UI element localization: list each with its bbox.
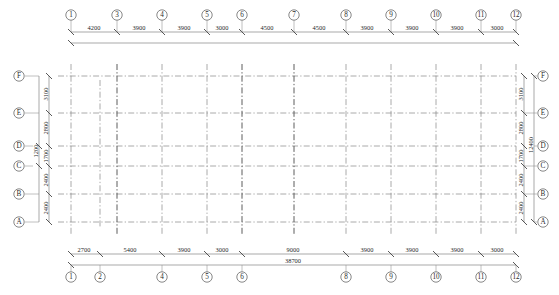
grid-bubble-top-10[interactable]: 10 bbox=[431, 10, 441, 32]
bubble-label: 12 bbox=[512, 273, 520, 281]
bubble-label: F bbox=[17, 72, 21, 80]
bubble-label: 4 bbox=[160, 11, 164, 19]
grid-bubble-bottom-2[interactable]: 2 bbox=[95, 265, 105, 282]
grid-bubble-left-C[interactable]: C bbox=[14, 161, 33, 171]
grid-bubble-left-B[interactable]: B bbox=[14, 189, 39, 199]
bottom-dim-8: 3900 bbox=[451, 246, 464, 253]
grid-bubble-right-C[interactable]: C bbox=[524, 161, 548, 171]
grid-bubble-top-12[interactable]: 12 bbox=[511, 10, 521, 32]
bubble-label: 1 bbox=[69, 273, 73, 281]
grid-bubble-bottom-10[interactable]: 10 bbox=[431, 265, 441, 282]
grid-bubble-bottom-8[interactable]: 8 bbox=[341, 265, 351, 282]
grid-bubble-left-D[interactable]: D bbox=[14, 141, 33, 151]
bubble-label: 4 bbox=[160, 273, 164, 281]
structural-grid-drawing: 4200 3900 3900 3000 4500 4500 3900 3900 … bbox=[0, 0, 559, 295]
bubble-label: 7 bbox=[292, 11, 296, 19]
grid-bubble-bottom-1[interactable]: 1 bbox=[66, 265, 76, 282]
bottom-dim-5: 9000 bbox=[287, 246, 300, 253]
grid-bubble-left-E[interactable]: E bbox=[14, 108, 39, 118]
vertical-grid-lines bbox=[71, 64, 516, 236]
grid-bubble-left-F[interactable]: F bbox=[14, 71, 39, 81]
left-dim-3: 1700 bbox=[42, 150, 49, 163]
top-dim-9: 3900 bbox=[451, 24, 464, 31]
bottom-dim-4: 3000 bbox=[216, 246, 229, 253]
grid-bubble-top-6[interactable]: 6 bbox=[237, 10, 247, 32]
right-dim-1: 3100 bbox=[517, 88, 524, 101]
grid-bubble-top-3[interactable]: 3 bbox=[112, 10, 122, 32]
bubble-label: 1 bbox=[69, 11, 73, 19]
grid-bubble-top-9[interactable]: 9 bbox=[386, 10, 396, 32]
bubble-label: 11 bbox=[478, 11, 485, 19]
bubble-label: C bbox=[541, 162, 546, 170]
bubble-label: 9 bbox=[389, 273, 393, 281]
bubble-label: B bbox=[17, 190, 22, 198]
bottom-dimension-string: 2700 5400 3900 3000 9000 3900 3900 3900 … bbox=[68, 246, 519, 269]
grid-bubble-bottom-12[interactable]: 12 bbox=[511, 265, 521, 282]
grid-bubble-top-5[interactable]: 5 bbox=[202, 10, 212, 32]
grid-bubble-right-A[interactable]: A bbox=[534, 217, 548, 227]
horizontal-grid-lines bbox=[58, 76, 516, 222]
bottom-dim-total: 38700 bbox=[285, 257, 301, 264]
top-dim-6: 4500 bbox=[313, 24, 326, 31]
bubble-label: 6 bbox=[240, 11, 244, 19]
top-dim-4: 3000 bbox=[216, 24, 229, 31]
bubble-label: 3 bbox=[115, 11, 119, 19]
bottom-dim-1: 2700 bbox=[78, 246, 91, 253]
grid-bubble-bottom-9[interactable]: 9 bbox=[386, 265, 396, 282]
grid-bubble-bottom-5[interactable]: 5 bbox=[202, 265, 212, 282]
left-dim-4: 2400 bbox=[42, 174, 49, 187]
grid-bubble-top-11[interactable]: 11 bbox=[476, 10, 486, 32]
bottom-dim-7: 3900 bbox=[406, 246, 419, 253]
grid-bubble-right-F[interactable]: F bbox=[534, 71, 548, 81]
bubble-label: 11 bbox=[478, 273, 485, 281]
top-dim-5: 4500 bbox=[261, 24, 274, 31]
right-dim-4: 2400 bbox=[517, 174, 524, 187]
bubble-label: 5 bbox=[205, 273, 209, 281]
bubble-label: F bbox=[541, 72, 545, 80]
bubble-label: A bbox=[16, 218, 22, 226]
grid-bubble-top-4[interactable]: 4 bbox=[157, 10, 167, 32]
bubble-label: 8 bbox=[344, 11, 348, 19]
bubble-label: B bbox=[541, 190, 546, 198]
bubble-label: D bbox=[16, 142, 21, 150]
bottom-dim-3: 3900 bbox=[178, 246, 191, 253]
grid-bubble-right-E[interactable]: E bbox=[524, 108, 548, 118]
bubble-label: 2 bbox=[98, 273, 102, 281]
left-dim-2: 2800 bbox=[42, 122, 49, 135]
left-dim-5: 2400 bbox=[42, 202, 49, 215]
bubble-label: E bbox=[17, 109, 22, 117]
right-dim-total: 12400 bbox=[527, 137, 534, 153]
grid-bubble-top-8[interactable]: 8 bbox=[341, 10, 351, 32]
left-dim-extra: 1200 bbox=[32, 145, 39, 158]
bubble-label: 5 bbox=[205, 11, 209, 19]
right-dim-5: 2400 bbox=[517, 202, 524, 215]
grid-bubble-bottom-6[interactable]: 6 bbox=[237, 265, 247, 282]
top-dim-10: 3000 bbox=[491, 24, 504, 31]
drawing-sheet: 4200 3900 3900 3000 4500 4500 3900 3900 … bbox=[0, 0, 559, 295]
bottom-grid-bubbles: 1 2 4 5 6 bbox=[66, 265, 521, 282]
top-dim-7: 3900 bbox=[361, 24, 374, 31]
bubble-label: D bbox=[540, 142, 545, 150]
right-dim-2: 2800 bbox=[517, 122, 524, 135]
bubble-label: 8 bbox=[344, 273, 348, 281]
grid-bubble-right-B[interactable]: B bbox=[524, 189, 548, 199]
bubble-label: A bbox=[540, 218, 546, 226]
bottom-dim-9: 3000 bbox=[491, 246, 504, 253]
right-dimension-string: 3100 2800 1700 2400 2400 12400 bbox=[517, 73, 538, 225]
grid-bubble-top-7[interactable]: 7 bbox=[289, 10, 299, 32]
top-dimension-string: 4200 3900 3900 3000 4500 4500 3900 3900 … bbox=[68, 24, 519, 47]
grid-bubble-left-A[interactable]: A bbox=[14, 217, 39, 227]
bubble-label: 10 bbox=[432, 273, 440, 281]
right-dim-3: 1700 bbox=[517, 150, 524, 163]
grid-bubble-bottom-11[interactable]: 11 bbox=[476, 265, 486, 282]
plan-grid-area bbox=[58, 64, 516, 236]
bubble-label: 10 bbox=[432, 11, 440, 19]
bottom-dim-2: 5400 bbox=[124, 246, 137, 253]
top-dim-3: 3900 bbox=[178, 24, 191, 31]
grid-bubble-right-D[interactable]: D bbox=[534, 141, 548, 151]
top-dim-2: 3900 bbox=[133, 24, 146, 31]
grid-bubble-top-1[interactable]: 1 bbox=[66, 10, 76, 32]
grid-bubble-bottom-4[interactable]: 4 bbox=[157, 265, 167, 282]
top-dim-1: 4200 bbox=[88, 24, 101, 31]
bubble-label: E bbox=[541, 109, 546, 117]
